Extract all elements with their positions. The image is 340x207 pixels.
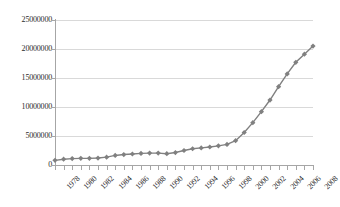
x-axis-tick xyxy=(141,166,142,170)
x-axis-tick-label: 2006 xyxy=(305,174,322,191)
x-axis-tick-label: 2000 xyxy=(254,174,271,191)
x-axis-tick xyxy=(193,166,194,170)
x-axis-tick xyxy=(253,166,254,170)
x-axis-tick xyxy=(64,166,65,170)
x-axis-tick-label: 2002 xyxy=(271,174,288,191)
x-axis-tick-label: 1980 xyxy=(82,174,99,191)
x-axis-tick xyxy=(304,166,305,170)
x-axis-tick xyxy=(124,166,125,170)
x-axis-tick xyxy=(261,166,262,170)
x-axis-tick xyxy=(89,166,90,170)
x-axis-tick xyxy=(107,166,108,170)
x-axis-tick-label: 1990 xyxy=(168,174,185,191)
x-axis-tick xyxy=(98,166,99,170)
x-axis-tick-label: 1992 xyxy=(185,174,202,191)
x-axis-tick xyxy=(55,166,56,170)
x-axis-tick-label: 1996 xyxy=(219,174,236,191)
x-axis-tick xyxy=(72,166,73,170)
x-axis-tick-label: 2004 xyxy=(288,174,305,191)
x-axis-tick-label: 1978 xyxy=(64,174,81,191)
x-axis-tick xyxy=(287,166,288,170)
x-axis-tick-label: 2008 xyxy=(322,174,339,191)
x-axis-tick xyxy=(150,166,151,170)
x-axis-tick xyxy=(313,166,314,170)
y-axis-tick xyxy=(51,78,55,79)
x-axis-tick-label: 1984 xyxy=(116,174,133,191)
x-axis-tick xyxy=(132,166,133,170)
x-axis-tick xyxy=(167,166,168,170)
x-axis-tick xyxy=(227,166,228,170)
x-axis-tick xyxy=(218,166,219,170)
x-axis-tick-label: 1988 xyxy=(150,174,167,191)
y-axis-tick xyxy=(51,49,55,50)
y-axis-tick xyxy=(51,136,55,137)
x-axis-tick xyxy=(158,166,159,170)
x-axis-tick-label: 1994 xyxy=(202,174,219,191)
x-axis-tick xyxy=(201,166,202,170)
x-axis-tick-label: 1986 xyxy=(133,174,150,191)
y-axis-tick xyxy=(51,107,55,108)
x-axis-tick xyxy=(81,166,82,170)
x-axis-tick xyxy=(270,166,271,170)
x-axis-tick xyxy=(210,166,211,170)
x-axis-tick xyxy=(244,166,245,170)
x-axis-tick xyxy=(296,166,297,170)
x-axis-tick xyxy=(115,166,116,170)
x-axis-tick xyxy=(184,166,185,170)
x-axis-tick xyxy=(279,166,280,170)
x-axis-tick xyxy=(236,166,237,170)
x-axis-tick-label: 1998 xyxy=(236,174,253,191)
x-axis-tick xyxy=(175,166,176,170)
y-axis-tick xyxy=(51,20,55,21)
x-axis-tick-label: 1982 xyxy=(99,174,116,191)
